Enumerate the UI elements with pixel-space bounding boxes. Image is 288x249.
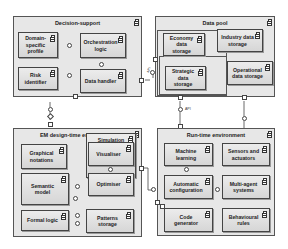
component-code-generator[interactable]: Code generator (164, 208, 213, 232)
component-risk-identifier[interactable]: Risk identifier (18, 67, 58, 90)
component-icon (51, 70, 55, 76)
component-label: Multi-agent systems (230, 181, 263, 194)
component-icon (127, 145, 131, 151)
component-machine-learning[interactable]: Machine learning (164, 143, 213, 166)
interface-lollipop (178, 107, 183, 112)
component-optimiser[interactable]: Optimiser (88, 173, 134, 196)
frame-title: Data pool (156, 20, 274, 26)
component-icon (268, 131, 272, 137)
port (139, 166, 144, 171)
port (139, 78, 144, 83)
interface-lollipop (184, 167, 189, 172)
component-icon (60, 147, 64, 153)
component-icon (256, 32, 260, 38)
component-icon (206, 211, 210, 217)
interface-lollipop (215, 187, 220, 192)
component-label: Patterns storage (97, 215, 123, 228)
component-label: Automatic configuration (169, 181, 207, 194)
component-icon (206, 178, 210, 184)
api-label: API (185, 107, 191, 111)
port (178, 95, 183, 100)
component-sensors-and-actuators[interactable]: Sensors and actuators (222, 143, 270, 166)
component-industry-data-storage[interactable]: Industry data storage (217, 29, 263, 52)
component-semantic-model[interactable]: Semantic model (21, 173, 69, 205)
component-label: Code generator (174, 214, 203, 227)
interface-lollipop (75, 184, 80, 189)
interface-lollipop (67, 43, 72, 48)
component-label: Behavioural rules (229, 214, 264, 227)
component-icon (199, 69, 203, 75)
interface-lollipop (73, 196, 78, 201)
component-label: Industry data storage (221, 34, 259, 47)
interface-lollipop (67, 73, 72, 78)
component-formal-logic[interactable]: Formal logic (21, 210, 69, 231)
port (242, 95, 247, 100)
component-data-handler[interactable]: Data handler (80, 69, 126, 93)
component-label: Visualiser (96, 151, 125, 158)
component-multi-agent-systems[interactable]: Multi-agent systems (222, 175, 270, 199)
component-strategic-data-storage[interactable]: Strategic data storage (165, 66, 206, 90)
interface-lollipop (108, 167, 113, 172)
component-orchestration-logic[interactable]: Orchestration logic (80, 33, 126, 58)
port (73, 94, 78, 99)
component-label: Formal logic (27, 217, 63, 224)
interface-lollipop (99, 62, 104, 67)
component-operational-data-storage[interactable]: Operational data storage (227, 61, 273, 85)
component-icon (263, 178, 267, 184)
component-icon (127, 176, 131, 182)
component-label: Semantic model (31, 183, 59, 196)
component-graphical-notations[interactable]: Graphical notations (21, 144, 67, 169)
interface-lollipop (151, 187, 156, 192)
component-icon (206, 146, 210, 152)
port (160, 204, 165, 209)
component-icon (62, 213, 66, 219)
port (153, 57, 158, 62)
component-icon (62, 176, 66, 182)
component-label: Orchestration logic (83, 39, 122, 52)
component-automatic-configuration[interactable]: Automatic configuration (164, 175, 213, 199)
component-label: Graphical notations (30, 150, 59, 163)
frame-title: Run-time environment (158, 132, 274, 138)
component-icon (119, 36, 123, 42)
component-label: Sensors and actuators (228, 148, 264, 161)
interface-lollipop (48, 107, 53, 112)
component-label: Optimiser (96, 181, 125, 188)
component-icon (263, 146, 267, 152)
component-icon (127, 212, 131, 218)
component-label: Machine learning (176, 148, 202, 161)
interface-lollipop (242, 116, 247, 121)
port (48, 122, 53, 127)
component-icon (135, 19, 139, 25)
component-visualiser[interactable]: Visualiser (88, 142, 134, 166)
interface-lollipop (75, 221, 80, 226)
component-icon (51, 35, 55, 41)
component-icon (119, 72, 123, 78)
component-behavioural-rules[interactable]: Behavioural rules (222, 208, 270, 232)
component-icon (266, 64, 270, 70)
component-icon (268, 19, 272, 25)
component-label: Data handler (85, 78, 121, 85)
component-patterns-storage[interactable]: Patterns storage (86, 209, 134, 233)
component-icon (198, 36, 202, 42)
component-icon (263, 211, 267, 217)
frame-title: Decision-support (14, 20, 141, 26)
component-domain-specific-profile[interactable]: Domain- specific profile (18, 32, 58, 58)
component-economy-data-storage[interactable]: Economy data storage (163, 33, 205, 56)
interface-lollipop (75, 213, 80, 218)
component-label: Operational data storage (232, 67, 268, 80)
